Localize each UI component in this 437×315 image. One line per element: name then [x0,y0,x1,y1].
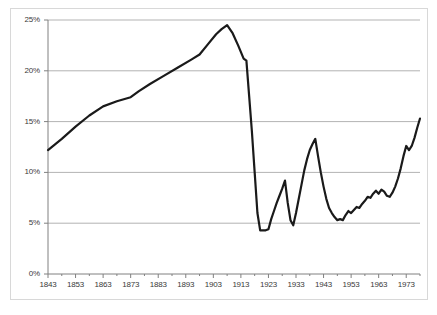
chart-container: 0%5%10%15%20%25% 18431853186318731883189… [0,0,437,315]
x-tick-label: 1893 [171,280,201,289]
chart-plot-area [0,0,437,315]
data-series-line [48,25,420,230]
x-tick-label: 1933 [281,280,311,289]
x-tick-label: 1913 [226,280,256,289]
x-tick-label: 1953 [336,280,366,289]
x-tick-label: 1873 [116,280,146,289]
y-tick-label: 25% [14,15,40,24]
x-tick-label: 1973 [391,280,421,289]
x-axis-ticks [48,274,420,278]
x-tick-label: 1843 [33,280,63,289]
y-axis-ticks [44,20,48,274]
x-tick-label: 1863 [88,280,118,289]
x-tick-label: 1883 [143,280,173,289]
y-tick-label: 5% [14,218,40,227]
x-tick-label: 1923 [253,280,283,289]
gridlines [48,20,420,223]
y-tick-label: 10% [14,167,40,176]
x-tick-label: 1853 [61,280,91,289]
y-tick-label: 0% [14,269,40,278]
x-tick-label: 1943 [309,280,339,289]
x-tick-label: 1903 [198,280,228,289]
y-tick-label: 15% [14,117,40,126]
y-tick-label: 20% [14,66,40,75]
x-tick-label: 1963 [364,280,394,289]
